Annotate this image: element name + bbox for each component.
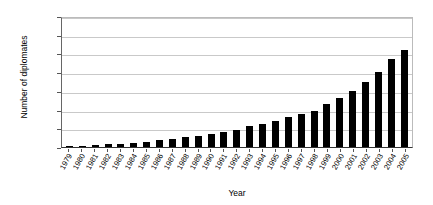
x-axis-title: Year xyxy=(61,188,413,198)
x-tick: 1996 xyxy=(285,149,292,191)
x-tick: 1989 xyxy=(195,149,202,191)
x-tick: 1986 xyxy=(156,149,163,191)
x-tick: 1982 xyxy=(104,149,111,191)
x-tick: 1997 xyxy=(298,149,305,191)
x-tick: 1994 xyxy=(259,149,266,191)
x-tick: 1993 xyxy=(246,149,253,191)
x-tick: 1985 xyxy=(143,149,150,191)
x-tick: 2002 xyxy=(363,149,370,191)
x-tick: 2001 xyxy=(350,149,357,191)
x-tick: 1984 xyxy=(130,149,137,191)
x-tick: 1979 xyxy=(65,149,72,191)
x-tick: 2000 xyxy=(337,149,344,191)
y-axis-title: Number of diplomates xyxy=(19,12,29,142)
x-tick: 1995 xyxy=(272,149,279,191)
bar xyxy=(362,82,369,148)
bar xyxy=(375,72,382,147)
bar-chart-figure: Number of diplomates 0500100015002000250… xyxy=(0,0,433,205)
bar xyxy=(388,59,395,147)
plot-area xyxy=(61,17,413,148)
x-tick: 2005 xyxy=(402,149,409,191)
x-tick: 1988 xyxy=(182,149,189,191)
x-tick: 1983 xyxy=(117,149,124,191)
x-tick: 2003 xyxy=(376,149,383,191)
x-tick: 1998 xyxy=(311,149,318,191)
x-tick: 1991 xyxy=(220,149,227,191)
bar xyxy=(401,50,408,147)
bars-container xyxy=(62,18,412,147)
x-tick: 1987 xyxy=(169,149,176,191)
x-tick: 1999 xyxy=(324,149,331,191)
x-tick: 1990 xyxy=(207,149,214,191)
x-tick: 1980 xyxy=(78,149,85,191)
x-tick: 1981 xyxy=(91,149,98,191)
x-tick-label-text: 1979 xyxy=(58,152,74,171)
x-tick: 1992 xyxy=(233,149,240,191)
x-axis-tick-labels: 1979198019811982198319841985198619871988… xyxy=(61,149,413,191)
x-tick: 2004 xyxy=(389,149,396,191)
